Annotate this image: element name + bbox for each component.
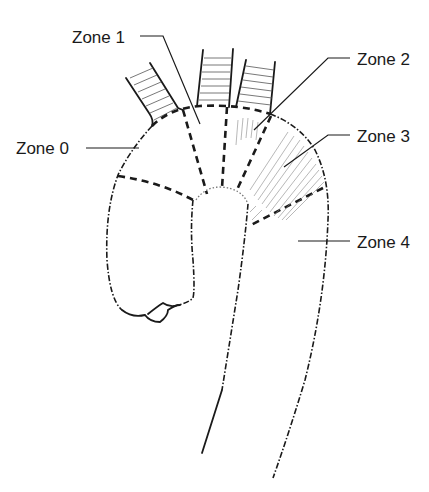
- left-common-carotid: [197, 49, 233, 107]
- zone-3-label: Zone 3: [357, 127, 410, 146]
- zone-1-label: Zone 1: [72, 28, 125, 47]
- zone-shading: [236, 118, 324, 220]
- zone-4-label: Zone 4: [357, 233, 410, 252]
- aortic-zones-diagram: Zone 1 Zone 2 Zone 0 Zone 3 Zone 4: [0, 0, 429, 492]
- zone-2-label: Zone 2: [357, 50, 410, 69]
- zone-0-label: Zone 0: [16, 139, 69, 158]
- left-subclavian: [236, 60, 275, 114]
- aorta-outline: [107, 114, 329, 478]
- arch-top-boundary: [152, 106, 270, 126]
- zone3-leader: [284, 135, 350, 167]
- zone1-leader: [140, 36, 200, 124]
- leader-lines: [86, 36, 350, 241]
- diagram-svg: Zone 1 Zone 2 Zone 0 Zone 3 Zone 4: [0, 0, 429, 492]
- brachiocephalic-trunk: [126, 63, 183, 126]
